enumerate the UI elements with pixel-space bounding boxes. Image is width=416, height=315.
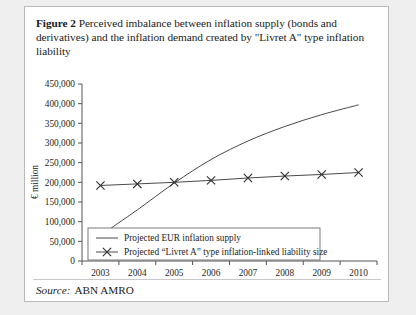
- figure-card: Figure 2 Perceived imbalance between inf…: [24, 6, 389, 302]
- x-tick-label: 2004: [128, 268, 147, 276]
- x-tick-label: 2003: [91, 268, 110, 276]
- figure-number: Figure 2: [36, 17, 76, 29]
- series-line-0: [100, 105, 358, 236]
- chart-plot-area: € million 050,000100,000150,000200,00025…: [25, 64, 390, 276]
- x-tick-label: 2006: [202, 268, 221, 276]
- x-axis-ticks: 20032004200520062007200820092010: [82, 261, 377, 276]
- y-axis-title-text: € million: [30, 165, 40, 199]
- y-axis-title: € million: [30, 165, 40, 199]
- figure-caption: Figure 2 Perceived imbalance between inf…: [36, 16, 380, 59]
- series-line-1: [100, 173, 358, 186]
- y-tick-label: 100,000: [45, 217, 76, 227]
- chart-legend: Projected EUR inflation supplyProjected …: [88, 228, 327, 260]
- y-tick-label: 0: [70, 256, 75, 266]
- x-tick-label: 2008: [276, 268, 295, 276]
- chart-series-layer: [96, 105, 362, 236]
- source-value: ABN AMRO: [70, 284, 133, 296]
- y-tick-label: 350,000: [45, 119, 76, 129]
- legend-label-0: Projected EUR inflation supply: [124, 233, 241, 243]
- x-tick-label: 2007: [239, 268, 258, 276]
- figure-caption-text: Perceived imbalance between inflation su…: [36, 17, 364, 57]
- x-tick-label: 2010: [349, 268, 368, 276]
- legend-label-1: Projected “Livret A” type inflation-link…: [124, 247, 327, 257]
- y-tick-label: 50,000: [49, 237, 75, 247]
- y-tick-label: 300,000: [45, 138, 76, 148]
- y-tick-label: 250,000: [45, 158, 76, 168]
- y-tick-label: 450,000: [45, 79, 76, 89]
- source-label: Source:: [36, 284, 70, 296]
- source-divider: [33, 279, 381, 280]
- source-note: Source:ABN AMRO: [36, 284, 134, 296]
- y-tick-label: 150,000: [45, 197, 76, 207]
- x-tick-label: 2005: [165, 268, 184, 276]
- y-axis-ticks: 050,000100,000150,000200,000250,000300,0…: [45, 79, 82, 266]
- y-tick-label: 400,000: [45, 99, 76, 109]
- x-tick-label: 2009: [312, 268, 331, 276]
- y-tick-label: 200,000: [45, 178, 76, 188]
- line-chart: € million 050,000100,000150,000200,00025…: [25, 64, 390, 276]
